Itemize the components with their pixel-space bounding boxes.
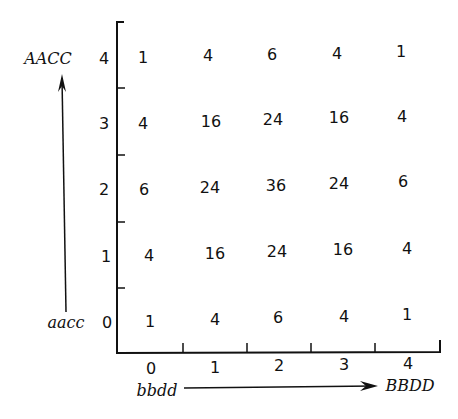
grid-cell: 6 bbox=[139, 180, 149, 199]
col-label: 1 bbox=[210, 358, 220, 377]
grid-cell: 1 bbox=[145, 312, 155, 331]
grid-cell: 6 bbox=[398, 172, 408, 191]
x-axis-right-label: BBDD bbox=[385, 376, 434, 395]
grid-cell: 4 bbox=[397, 107, 407, 126]
grid-cell: 16 bbox=[201, 112, 221, 131]
grid-cell: 4 bbox=[138, 114, 148, 133]
grid-cell: 16 bbox=[333, 240, 353, 259]
grid-cell: 4 bbox=[339, 307, 349, 326]
x-axis-left-label: bbdd bbox=[137, 381, 178, 400]
col-label: 0 bbox=[146, 359, 156, 378]
grid-cell: 4 bbox=[144, 246, 154, 265]
grid-cell: 4 bbox=[332, 44, 342, 63]
grid-cell: 24 bbox=[267, 242, 287, 261]
grid-cell: 6 bbox=[267, 45, 277, 64]
grid-cell: 24 bbox=[329, 174, 349, 193]
grid-cell: 16 bbox=[205, 244, 225, 263]
grid-cell: 1 bbox=[402, 305, 412, 324]
grid-cell: 1 bbox=[138, 48, 148, 67]
row-label: 0 bbox=[102, 313, 112, 332]
y-axis-top-label: AACC bbox=[24, 49, 72, 68]
row-label: 1 bbox=[101, 247, 111, 266]
row-label: 3 bbox=[99, 114, 109, 133]
grid-cell: 36 bbox=[266, 176, 286, 195]
grid-cell: 24 bbox=[200, 178, 220, 197]
row-label: 2 bbox=[99, 180, 109, 199]
row-label: 4 bbox=[99, 49, 109, 68]
grid-cell: 16 bbox=[329, 108, 349, 127]
grid-cell: 24 bbox=[263, 110, 283, 129]
grid-cell: 4 bbox=[210, 310, 220, 329]
col-label: 4 bbox=[403, 354, 413, 373]
y-axis-bottom-label: aacc bbox=[48, 313, 85, 332]
grid-cell: 4 bbox=[402, 239, 412, 258]
grid-cell: 1 bbox=[396, 42, 406, 61]
grid-cell: 6 bbox=[273, 308, 283, 327]
col-label: 2 bbox=[274, 356, 284, 375]
grid-cell: 4 bbox=[203, 46, 213, 65]
col-label: 3 bbox=[339, 355, 349, 374]
